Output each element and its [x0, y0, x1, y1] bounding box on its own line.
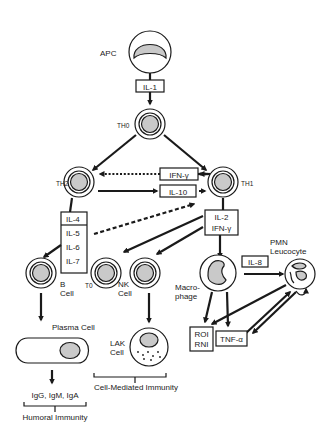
nk-label-line2: Cell — [118, 289, 132, 298]
humoral-bracket — [24, 402, 86, 412]
th0-to-th2-arrow — [93, 135, 136, 170]
apc-label: APC — [100, 49, 117, 58]
th0-label: TH0 — [117, 122, 130, 129]
t0-label: T0 — [85, 282, 93, 289]
nk-label-line1: NK — [118, 280, 130, 289]
macrophage-to-tnf-arrow — [227, 292, 228, 326]
il10-label: IL-10 — [169, 188, 188, 197]
lak-label-line2: Cell — [110, 348, 124, 357]
tnf-to-pmn-arrow — [245, 292, 290, 334]
ifn-gamma-2-label: IFN-γ — [212, 224, 232, 233]
il2-label: IL-2 — [215, 213, 229, 222]
roi-label: ROI — [194, 330, 208, 339]
il1-label: IL-1 — [143, 83, 157, 92]
pmn-leucocyte-cell — [285, 259, 315, 289]
immunoglobulins-label: IgG, IgM, IgA — [31, 391, 79, 400]
ifn-gamma-label: IFN-γ — [169, 171, 189, 180]
th2-to-bcell-arrow — [44, 245, 61, 257]
macrophage-label-line1: Macro- — [175, 283, 200, 292]
il8-label: IL-8 — [248, 258, 262, 267]
il5-label: IL-5 — [66, 229, 80, 238]
apc-cell — [129, 31, 171, 73]
il7-label: IL-7 — [66, 257, 80, 266]
pmn-self-activation-arrow — [296, 289, 306, 295]
pmn-label-line2: Leucocyte — [270, 247, 307, 256]
macrophage-to-roi-arrow — [205, 292, 212, 322]
th1-label: TH1 — [241, 180, 254, 187]
il6-label: IL-6 — [66, 243, 80, 252]
t0-cell — [91, 258, 121, 288]
th1-cell — [208, 167, 238, 197]
th2-to-th1-dashed-arrow — [94, 204, 194, 234]
tnf-alpha-label: TNF-α — [220, 335, 243, 344]
b-cell — [26, 258, 56, 288]
th2-cell — [64, 167, 94, 197]
rni-label: RNI — [195, 340, 209, 349]
nk-cell — [130, 258, 160, 288]
b-cell-label-line2: Cell — [60, 289, 74, 298]
cell-mediated-bracket — [94, 373, 166, 383]
th1-to-nk-arrow — [157, 227, 203, 254]
b-cell-label-line1: B — [60, 280, 65, 289]
plasma-cell — [16, 338, 89, 363]
th2-label: TH2 — [56, 180, 69, 187]
il4-label: IL-4 — [66, 215, 80, 224]
lak-cell — [130, 328, 168, 366]
th0-to-th1-arrow — [164, 135, 206, 170]
cell-mediated-immunity-label: Cell-Mediated Immunity — [94, 383, 178, 392]
plasma-cell-label: Plasma Cell — [52, 323, 95, 332]
humoral-immunity-label: Humoral Immunity — [23, 413, 88, 422]
immune-response-diagram: APC IL-1 TH0 TH2 TH1 IFN-γ IL-10 IL-4 — [0, 0, 329, 444]
th0-cell — [135, 109, 165, 139]
macrophage-label-line2: phage — [175, 292, 198, 301]
lak-label-line1: LAK — [110, 339, 126, 348]
pmn-label-line1: PMN — [270, 238, 288, 247]
th2-to-cytokines-line — [70, 198, 72, 212]
macrophage-cell — [200, 255, 236, 291]
